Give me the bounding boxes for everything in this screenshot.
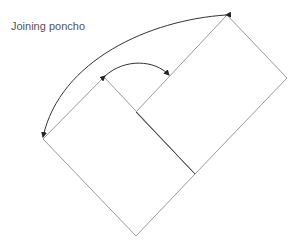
lower-rectangle [43, 77, 195, 236]
outer-arc-arrow [43, 15, 226, 137]
poncho-diagram [0, 0, 303, 251]
large-rectangle [136, 15, 287, 174]
center-fold-line [136, 112, 195, 174]
inner-arc-arrow [105, 63, 169, 76]
